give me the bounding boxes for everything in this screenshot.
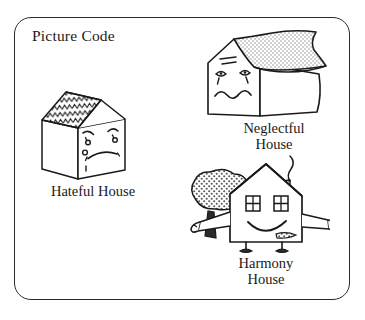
neglectful-house-label-line1: Neglectful [218, 120, 330, 136]
neglectful-house-caption: Neglectful House [218, 120, 330, 152]
harmony-house-caption: Harmony House [212, 255, 320, 287]
hateful-house-illustration [30, 78, 150, 182]
harmony-house-illustration [178, 150, 330, 258]
picture-code-figure: Picture Code [0, 0, 365, 320]
harmony-house-label-line2: House [212, 271, 320, 287]
hateful-house-label: Hateful House [26, 183, 160, 199]
harmony-house-label-line1: Harmony [212, 255, 320, 271]
figure-title: Picture Code [32, 27, 115, 45]
hateful-house-caption: Hateful House [26, 183, 160, 199]
neglectful-house-illustration [198, 26, 334, 122]
